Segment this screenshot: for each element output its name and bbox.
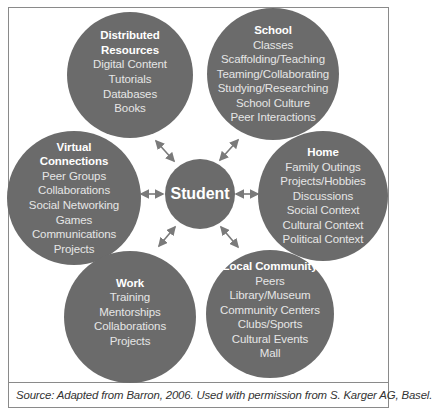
node-item: Tutorials <box>109 72 152 87</box>
node-item: Family Outings <box>285 160 360 175</box>
node-item: Projects/Hobbies <box>280 174 365 189</box>
center-label: Student <box>171 187 230 202</box>
node-item: Peers <box>255 274 285 289</box>
node-work: Work Training Mentorships Collaborations… <box>64 251 196 383</box>
node-item: Teaming/Collaborating <box>217 67 329 82</box>
node-item: Library/Museum <box>229 288 310 303</box>
node-item: Digital Content <box>93 57 167 72</box>
node-title: School <box>254 23 292 38</box>
node-item: Games <box>56 213 93 228</box>
caption-divider <box>8 382 389 383</box>
node-item: Clubs/Sports <box>238 317 303 332</box>
node-item: Collaborations <box>94 319 166 334</box>
node-home: Home Family Outings Projects/Hobbies Dis… <box>258 131 388 261</box>
source-caption: Source: Adapted from Barron, 2006. Used … <box>16 389 432 401</box>
node-item: Projects <box>110 334 151 349</box>
node-title: Distributed <box>100 28 160 43</box>
node-item: Peer Interactions <box>230 110 315 125</box>
node-item: Cultural Context <box>283 218 364 233</box>
node-item: Cultural Events <box>232 332 308 347</box>
node-distributed-resources: Distributed Resources Digital Content Tu… <box>67 12 193 138</box>
node-item: Social Networking <box>29 198 119 213</box>
node-title: Resources <box>101 43 159 58</box>
node-title: Work <box>116 276 144 291</box>
node-title: Home <box>307 145 339 160</box>
node-item: Peer Groups <box>42 169 106 184</box>
node-title: Connections <box>40 154 109 169</box>
node-item: Classes <box>253 38 293 53</box>
node-title: Virtual <box>57 140 92 155</box>
node-item: Training <box>110 290 150 305</box>
node-item: Communications <box>32 227 116 242</box>
node-local-community: Local Community Peers Library/Museum Com… <box>206 250 334 378</box>
node-item: Political Context <box>283 232 364 247</box>
node-item: Scaffolding/Teaching <box>221 52 325 67</box>
node-item: Collaborations <box>38 183 110 198</box>
node-school: School Classes Scaffolding/Teaching Team… <box>207 8 339 140</box>
node-student: Student <box>165 159 235 229</box>
node-item: Databases <box>103 87 157 102</box>
node-virtual-connections: Virtual Connections Peer Groups Collabor… <box>7 131 141 265</box>
node-item: Community Centers <box>220 303 320 318</box>
node-item: Mentorships <box>99 305 161 320</box>
node-item: Mall <box>260 346 281 361</box>
node-item: Books <box>114 101 145 116</box>
node-item: School Culture <box>236 96 310 111</box>
node-item: Projects <box>54 242 95 257</box>
node-item: Studying/Researching <box>218 81 329 96</box>
node-title: Local Community <box>223 259 318 274</box>
node-item: Social Context <box>287 203 360 218</box>
node-item: Discussions <box>293 189 353 204</box>
